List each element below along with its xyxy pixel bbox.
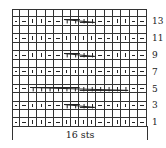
blank-cell bbox=[37, 43, 45, 51]
knitting-chart-grid bbox=[12, 9, 147, 127]
knit-stitch-cell bbox=[79, 68, 87, 76]
purl-stitch-cell bbox=[130, 17, 138, 25]
blank-cell bbox=[113, 93, 121, 101]
purl-stitch-cell bbox=[46, 68, 54, 76]
cable-stitch-cell bbox=[63, 17, 71, 25]
chart-row-3 bbox=[12, 102, 147, 110]
cable-stitch-cell bbox=[79, 51, 87, 59]
knit-stitch-cell bbox=[63, 68, 71, 76]
purl-stitch-cell bbox=[12, 118, 20, 126]
cable-stitch-cell bbox=[63, 102, 71, 110]
blank-cell bbox=[20, 110, 28, 118]
chart-row-13 bbox=[12, 17, 147, 25]
chart-row-11 bbox=[12, 34, 147, 42]
purl-stitch-cell bbox=[46, 118, 54, 126]
blank-cell bbox=[54, 43, 62, 51]
knit-stitch-cell bbox=[121, 51, 129, 59]
purl-stitch-cell bbox=[46, 34, 54, 42]
purl-stitch-cell bbox=[46, 17, 54, 25]
blank-cell bbox=[29, 43, 37, 51]
purl-stitch-cell bbox=[46, 51, 54, 59]
blank-cell bbox=[54, 110, 62, 118]
cable-stitch-cell bbox=[113, 85, 121, 93]
stitch-count-label: 16 sts bbox=[0, 129, 160, 140]
blank-cell bbox=[20, 43, 28, 51]
blank-cell bbox=[71, 60, 79, 68]
chart-row-12 bbox=[12, 26, 147, 34]
knit-stitch-cell bbox=[37, 51, 45, 59]
blank-cell bbox=[46, 60, 54, 68]
purl-stitch-cell bbox=[20, 102, 28, 110]
purl-stitch-cell bbox=[54, 51, 62, 59]
blank-cell bbox=[105, 26, 113, 34]
purl-stitch-cell bbox=[105, 34, 113, 42]
knit-stitch-cell bbox=[121, 17, 129, 25]
knit-stitch-cell bbox=[88, 34, 96, 42]
cable-stitch-cell bbox=[46, 85, 54, 93]
blank-cell bbox=[54, 9, 62, 17]
blank-cell bbox=[63, 26, 71, 34]
purl-stitch-cell bbox=[130, 68, 138, 76]
chart-row-1 bbox=[12, 118, 147, 126]
blank-cell bbox=[12, 110, 20, 118]
blank-cell bbox=[54, 76, 62, 84]
blank-cell bbox=[79, 76, 87, 84]
blank-cell bbox=[79, 93, 87, 101]
blank-cell bbox=[46, 110, 54, 118]
blank-cell bbox=[88, 60, 96, 68]
purl-stitch-cell bbox=[96, 17, 104, 25]
cable-stitch-cell bbox=[63, 51, 71, 59]
blank-cell bbox=[20, 93, 28, 101]
knit-stitch-cell bbox=[113, 102, 121, 110]
blank-cell bbox=[79, 9, 87, 17]
blank-cell bbox=[138, 9, 146, 17]
chart-row-10 bbox=[12, 43, 147, 51]
purl-stitch-cell bbox=[105, 118, 113, 126]
blank-cell bbox=[20, 26, 28, 34]
cable-stitch-cell bbox=[96, 85, 104, 93]
blank-cell bbox=[29, 93, 37, 101]
blank-cell bbox=[37, 110, 45, 118]
blank-cell bbox=[88, 43, 96, 51]
blank-cell bbox=[46, 43, 54, 51]
blank-cell bbox=[20, 60, 28, 68]
purl-stitch-cell bbox=[12, 85, 20, 93]
row-label-9: 9 bbox=[152, 51, 158, 60]
blank-cell bbox=[12, 60, 20, 68]
blank-cell bbox=[71, 9, 79, 17]
cable-stitch-cell bbox=[71, 102, 79, 110]
blank-cell bbox=[88, 110, 96, 118]
blank-cell bbox=[130, 26, 138, 34]
blank-cell bbox=[88, 76, 96, 84]
purl-stitch-cell bbox=[54, 102, 62, 110]
purl-stitch-cell bbox=[130, 85, 138, 93]
purl-stitch-cell bbox=[138, 102, 146, 110]
purl-stitch-cell bbox=[138, 34, 146, 42]
purl-stitch-cell bbox=[20, 34, 28, 42]
blank-cell bbox=[37, 76, 45, 84]
cable-stitch-cell bbox=[71, 17, 79, 25]
blank-cell bbox=[46, 9, 54, 17]
purl-stitch-cell bbox=[54, 34, 62, 42]
blank-cell bbox=[130, 76, 138, 84]
purl-stitch-cell bbox=[12, 17, 20, 25]
chart-row-4 bbox=[12, 93, 147, 101]
blank-cell bbox=[113, 76, 121, 84]
knit-stitch-cell bbox=[113, 68, 121, 76]
row-label-13: 13 bbox=[152, 17, 163, 26]
blank-cell bbox=[37, 93, 45, 101]
blank-cell bbox=[12, 76, 20, 84]
blank-cell bbox=[29, 26, 37, 34]
purl-stitch-cell bbox=[130, 102, 138, 110]
knit-stitch-cell bbox=[37, 17, 45, 25]
purl-stitch-cell bbox=[105, 51, 113, 59]
blank-cell bbox=[46, 26, 54, 34]
blank-cell bbox=[54, 60, 62, 68]
blank-cell bbox=[121, 9, 129, 17]
purl-stitch-cell bbox=[105, 17, 113, 25]
knit-stitch-cell bbox=[79, 34, 87, 42]
blank-cell bbox=[138, 26, 146, 34]
blank-cell bbox=[121, 76, 129, 84]
blank-cell bbox=[113, 60, 121, 68]
purl-stitch-cell bbox=[46, 102, 54, 110]
